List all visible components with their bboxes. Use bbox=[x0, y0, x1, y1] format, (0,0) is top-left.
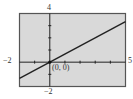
origin-point bbox=[48, 61, 51, 64]
x-min-label: −2 bbox=[3, 57, 12, 65]
x-max-label: 5 bbox=[128, 57, 132, 65]
calculator-graph bbox=[0, 0, 133, 99]
y-min-label: −2 bbox=[44, 88, 53, 96]
y-max-label: 4 bbox=[47, 4, 51, 12]
origin-annotation: (0, 0) bbox=[52, 64, 69, 72]
